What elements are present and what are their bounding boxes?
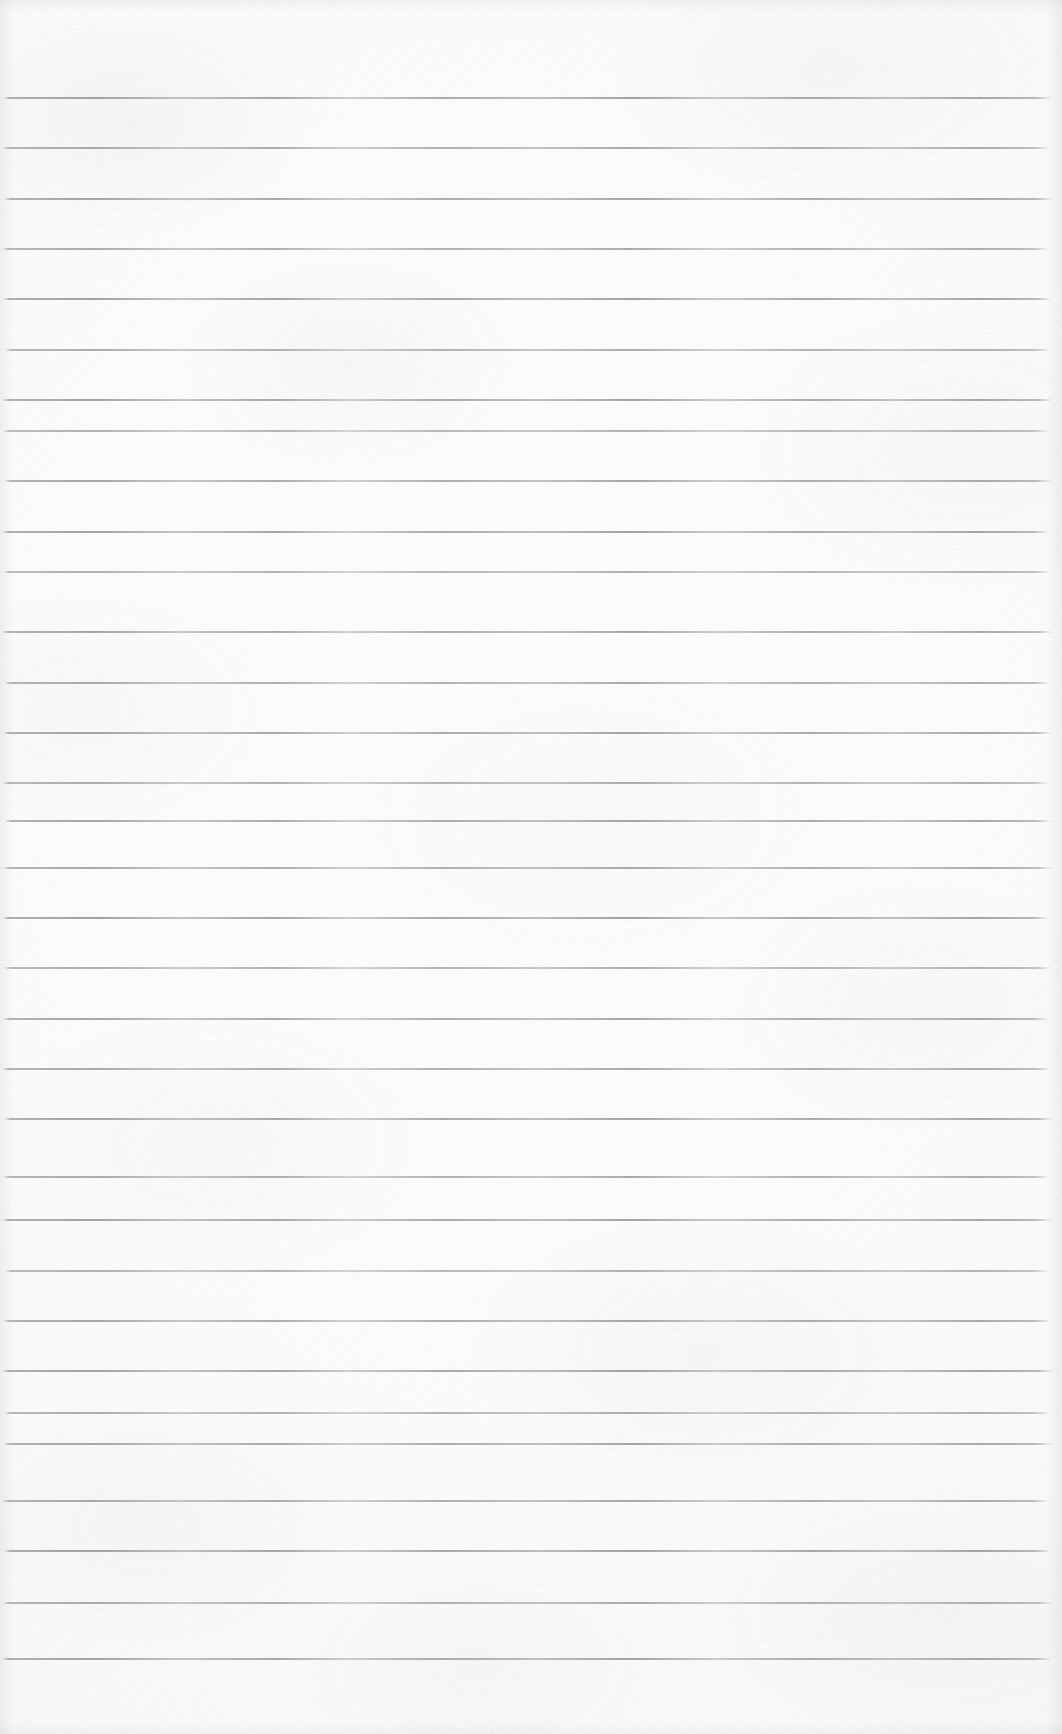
- scanned-page: [0, 0, 1062, 1734]
- page-edge-shadow: [0, 0, 1062, 1734]
